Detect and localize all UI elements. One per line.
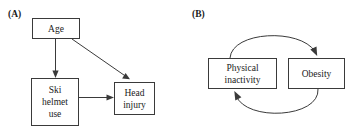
node-physical-inactivity-line-1: Physical	[226, 63, 258, 73]
node-age: Age	[32, 18, 80, 39]
edge-physical-inactivity-to-obesity	[230, 36, 317, 58]
panel-b: (B) Physical inactivity Obesity	[178, 0, 356, 136]
node-ski-helmet-use-label: Ski helmet use	[42, 84, 68, 120]
node-age-label: Age	[48, 23, 64, 35]
node-ski-helmet-use: Ski helmet use	[31, 78, 79, 126]
node-head-injury-label: Head injury	[123, 87, 146, 111]
node-physical-inactivity-label: Physical inactivity	[225, 62, 261, 86]
edge-age-to-head-injury	[72, 39, 130, 79]
node-head-injury-line-1: Head	[124, 88, 144, 98]
node-head-injury-line-2: injury	[123, 100, 146, 110]
node-head-injury: Head injury	[114, 82, 155, 115]
panel-a: (A) Age Ski helmet	[0, 0, 178, 136]
node-physical-inactivity: Physical inactivity	[208, 58, 277, 89]
panel-a-edge-layer	[0, 0, 178, 136]
causal-diagram-figure: (A) Age Ski helmet	[0, 0, 356, 136]
edge-age-to-ski-helmet	[52, 39, 58, 78]
node-physical-inactivity-line-2: inactivity	[225, 75, 261, 85]
node-obesity-label: Obesity	[302, 68, 332, 80]
node-ski-helmet-use-line-1: Ski	[49, 85, 62, 95]
node-obesity: Obesity	[288, 58, 345, 89]
node-ski-helmet-use-line-2: helmet	[42, 97, 68, 107]
edge-ski-helmet-to-head-injury	[79, 94, 114, 100]
node-ski-helmet-use-line-3: use	[49, 109, 62, 119]
edge-obesity-to-physical-inactivity	[234, 89, 318, 113]
